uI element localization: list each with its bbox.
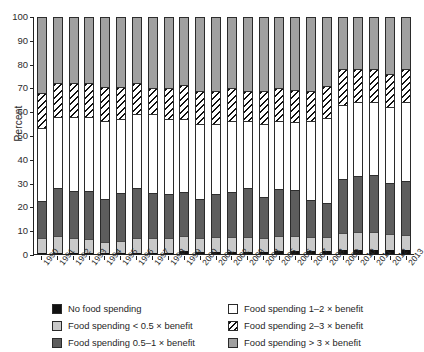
- y-tick: [30, 65, 34, 66]
- y-tick: [30, 41, 34, 42]
- stacked-bar: [322, 17, 332, 254]
- x-tick-cell: 1993: [81, 256, 97, 298]
- stacked-bar: [274, 17, 284, 254]
- bar-segment: [339, 69, 347, 105]
- legend-item: Food spending < 0.5 × benefit: [52, 320, 228, 331]
- y-tick-label: 60: [4, 106, 28, 117]
- bar-segment: [85, 191, 93, 239]
- bar-segment: [323, 17, 331, 86]
- bar-column: [129, 17, 145, 254]
- stacked-bar: [132, 17, 142, 254]
- bar-segment: [370, 17, 378, 69]
- bar-segment: [307, 121, 315, 200]
- bar-segment: [117, 17, 125, 87]
- bar-column: [287, 17, 303, 254]
- y-tick: [30, 160, 34, 161]
- bar-column: [256, 17, 272, 254]
- bar-segment: [85, 83, 93, 116]
- x-tick-cell: 1998: [160, 256, 176, 298]
- y-tick-label: 20: [4, 201, 28, 212]
- y-tick-label: 50: [4, 130, 28, 141]
- bar-segment: [165, 119, 173, 194]
- bar-column: [97, 17, 113, 254]
- bar-segment: [291, 17, 299, 90]
- bar-segment: [85, 17, 93, 83]
- x-tick-cell: 2007: [303, 256, 319, 298]
- bar-column: [398, 17, 414, 254]
- bar-column: [145, 17, 161, 254]
- x-tick-cell: 2010: [351, 256, 367, 298]
- y-axis-title: Percent: [13, 84, 24, 164]
- bar-segment: [339, 105, 347, 179]
- y-tick-label: 10: [4, 225, 28, 236]
- x-axis-labels: 1990199119921993199419951996199719981999…: [33, 256, 414, 298]
- bar-segment: [386, 17, 394, 74]
- x-tick-cell: 2006: [287, 256, 303, 298]
- bar-segment: [323, 86, 331, 118]
- x-tick-cell: 2012: [382, 256, 398, 298]
- bar-segment: [339, 179, 347, 233]
- bar-segment: [38, 238, 46, 253]
- bar-segment: [165, 17, 173, 88]
- bar-segment: [228, 88, 236, 121]
- x-tick-cell: 2003: [239, 256, 255, 298]
- bar-segment: [339, 17, 347, 69]
- bar-column: [224, 17, 240, 254]
- stacked-bar: [84, 17, 94, 254]
- x-tick-cell: 2011: [366, 256, 382, 298]
- x-tick-cell: 1999: [176, 256, 192, 298]
- stacked-bar: [338, 17, 348, 254]
- bar-segment: [133, 83, 141, 114]
- bar-column: [176, 17, 192, 254]
- bar-segment: [165, 88, 173, 119]
- bar-segment: [402, 17, 410, 69]
- x-tick-cell: 1997: [144, 256, 160, 298]
- y-tick: [30, 88, 34, 89]
- x-tick-cell: 2004: [255, 256, 271, 298]
- bar-column: [208, 17, 224, 254]
- x-tick-cell: 1990: [33, 256, 49, 298]
- bar-segment: [260, 124, 268, 197]
- bar-segment: [354, 69, 362, 102]
- bar-column: [366, 17, 382, 254]
- bar-segment: [133, 114, 141, 187]
- y-tick: [30, 207, 34, 208]
- bar-segment: [402, 69, 410, 102]
- stacked-bar: [211, 17, 221, 254]
- x-tick-cell: 1996: [128, 256, 144, 298]
- bar-segment: [354, 17, 362, 69]
- x-tick-cell: 1995: [112, 256, 128, 298]
- x-tick-cell: 2005: [271, 256, 287, 298]
- y-tick: [30, 184, 34, 185]
- stacked-bar: [385, 17, 395, 254]
- bar-segment: [180, 192, 188, 236]
- bar-segment: [244, 91, 252, 122]
- bar-segment: [212, 17, 220, 90]
- legend-label: Food spending < 0.5 × benefit: [68, 320, 193, 331]
- bar-segment: [244, 121, 252, 187]
- bar-segment: [260, 17, 268, 90]
- bar-segment: [354, 176, 362, 232]
- x-tick-cell: 2009: [335, 256, 351, 298]
- bar-column: [81, 17, 97, 254]
- bar-column: [50, 17, 66, 254]
- bar-segment: [275, 17, 283, 88]
- stacked-bar: [37, 17, 47, 254]
- legend-swatch-icon: [228, 338, 238, 348]
- stacked-bar: [53, 17, 63, 254]
- stacked-bar: [227, 17, 237, 254]
- bar-segment: [196, 91, 204, 124]
- bar-segment: [149, 88, 157, 114]
- bar-segment: [70, 83, 78, 116]
- bar-segment: [228, 121, 236, 192]
- bar-column: [319, 17, 335, 254]
- bar-segment: [275, 189, 283, 236]
- legend-swatch-icon: [52, 338, 62, 348]
- bar-segment: [54, 83, 62, 116]
- stacked-bar: [148, 17, 158, 254]
- legend-swatch-icon: [228, 321, 238, 331]
- legend-swatch-icon: [52, 321, 62, 331]
- bar-segment: [101, 199, 109, 243]
- bar-segment: [228, 17, 236, 88]
- y-tick-label: 0: [4, 249, 28, 260]
